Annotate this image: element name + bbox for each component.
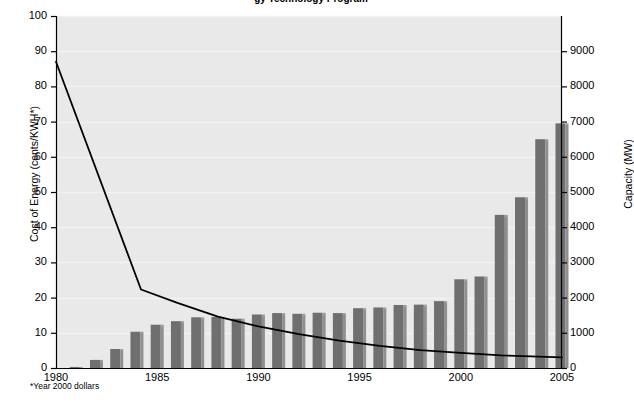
left-tick-label: 100	[0, 9, 47, 21]
bar-top-bevel	[525, 197, 528, 199]
bar	[70, 367, 80, 368]
bar-highlight	[404, 307, 407, 368]
bar-highlight	[140, 333, 143, 368]
right-tick-label: 2000	[570, 291, 594, 303]
bar	[232, 319, 242, 368]
bar	[414, 305, 424, 368]
bar-top-bevel	[464, 279, 467, 281]
bar-highlight	[363, 310, 366, 368]
bar-highlight	[161, 326, 164, 368]
bar-highlight	[545, 141, 548, 368]
bottom-tick-label: 2000	[433, 371, 489, 383]
left-tick-label: 10	[0, 326, 47, 338]
bar-highlight	[302, 315, 305, 368]
bar	[434, 301, 444, 368]
left-tick-label: 20	[0, 291, 47, 303]
bar	[130, 332, 140, 368]
bar	[454, 279, 464, 368]
left-tick-label: 40	[0, 220, 47, 232]
right-tick-label: 8000	[570, 79, 594, 91]
bar-highlight	[262, 316, 265, 368]
chart-footnote: *Year 2000 dollars	[30, 381, 99, 391]
bottom-tick-label: 2005	[534, 371, 590, 383]
bottom-tick-label: 1990	[230, 371, 286, 383]
bar	[556, 123, 566, 368]
left-tick-label: 70	[0, 115, 47, 127]
bottom-tick-label: 1985	[129, 371, 185, 383]
bar-highlight	[221, 319, 224, 368]
bar-top-bevel	[282, 313, 285, 315]
bar	[535, 139, 545, 368]
bar-top-bevel	[444, 301, 447, 303]
bar-highlight	[525, 199, 528, 368]
bar-top-bevel	[100, 360, 103, 362]
bar-top-bevel	[242, 319, 245, 321]
bar-highlight	[444, 303, 447, 368]
right-tick-label: 5000	[570, 185, 594, 197]
bottom-tick-label: 1995	[332, 371, 388, 383]
bar-highlight	[464, 281, 467, 368]
bar-top-bevel	[424, 305, 427, 307]
bar-highlight	[566, 125, 569, 368]
bar	[495, 215, 505, 368]
right-tick-label: 1000	[570, 326, 594, 338]
bar-top-bevel	[140, 332, 143, 334]
bar	[515, 197, 525, 368]
bar-top-bevel	[201, 317, 204, 319]
bar-top-bevel	[302, 314, 305, 316]
bar-top-bevel	[566, 123, 569, 125]
bar-highlight	[383, 309, 386, 368]
bar	[252, 314, 262, 368]
bar-top-bevel	[262, 314, 265, 316]
bar-top-bevel	[181, 321, 184, 323]
right-tick-label: 7000	[570, 115, 594, 127]
bar-top-bevel	[545, 139, 548, 141]
bar-top-bevel	[161, 325, 164, 327]
bar	[373, 307, 383, 368]
bar-highlight	[282, 315, 285, 368]
bar-top-bevel	[120, 349, 123, 351]
bar	[272, 313, 282, 368]
bar-top-bevel	[363, 308, 366, 310]
bar	[90, 360, 100, 368]
left-tick-label: 30	[0, 255, 47, 267]
bar-highlight	[120, 351, 123, 368]
left-axis-title: Cost of Energy (cents/KWH*)	[28, 74, 40, 274]
bar-highlight	[201, 319, 204, 368]
bar	[171, 321, 181, 368]
bar-highlight	[181, 323, 184, 368]
left-tick-label: 50	[0, 185, 47, 197]
bar-top-bevel	[343, 313, 346, 315]
right-tick-label: 3000	[570, 255, 594, 267]
bar-top-bevel	[485, 276, 488, 278]
bar-highlight	[505, 216, 508, 368]
bar-highlight	[100, 362, 103, 368]
bar-top-bevel	[404, 305, 407, 307]
bar	[394, 305, 404, 368]
bar	[110, 349, 120, 368]
bar-highlight	[323, 314, 326, 368]
bar	[191, 317, 201, 368]
right-tick-label: 9000	[570, 44, 594, 56]
left-tick-label: 60	[0, 150, 47, 162]
bar-highlight	[242, 320, 245, 368]
bar	[353, 308, 363, 368]
right-tick-label: 6000	[570, 150, 594, 162]
left-tick-label: 90	[0, 44, 47, 56]
bar-top-bevel	[383, 307, 386, 309]
right-tick-label: 4000	[570, 220, 594, 232]
bar	[151, 325, 161, 368]
bar	[211, 317, 221, 368]
bar-highlight	[424, 306, 427, 368]
bar-top-bevel	[323, 313, 326, 315]
bar-top-bevel	[505, 215, 508, 217]
left-tick-label: 80	[0, 79, 47, 91]
right-axis-title: Capacity (MW)	[622, 74, 634, 274]
bar	[313, 313, 323, 368]
bar	[292, 314, 302, 368]
